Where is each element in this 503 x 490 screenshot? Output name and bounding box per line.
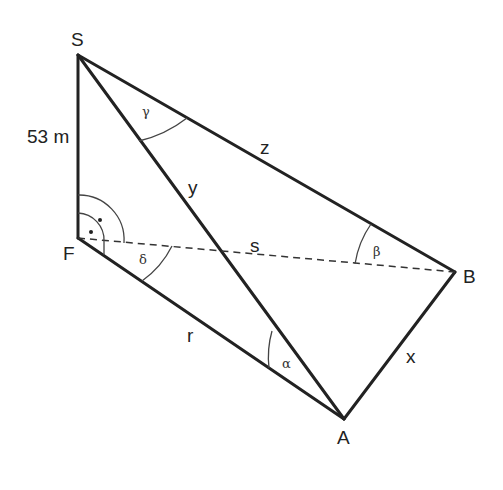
side-label-s: s bbox=[250, 235, 260, 256]
point-label-F: F bbox=[63, 243, 75, 264]
edge-FB-dashed bbox=[78, 238, 455, 272]
angle-label-delta: δ bbox=[139, 252, 147, 267]
side-label-z: z bbox=[260, 137, 270, 158]
angle-label-gamma: γ bbox=[142, 104, 150, 119]
right-angle-dot-2 bbox=[89, 230, 93, 234]
angle-alpha-arc bbox=[268, 331, 272, 368]
point-label-A: A bbox=[337, 427, 350, 448]
edge-SB bbox=[78, 55, 455, 272]
right-angle-dot-1 bbox=[98, 218, 102, 222]
angle-label-beta: β bbox=[373, 244, 381, 259]
height-label: 53 m bbox=[27, 126, 69, 147]
edge-FA bbox=[78, 238, 344, 419]
geometry-diagram: S F B A 53 m y z s r x γ δ β α bbox=[0, 0, 503, 490]
side-label-r: r bbox=[187, 325, 194, 346]
side-label-x: x bbox=[406, 346, 416, 367]
edge-SA bbox=[78, 55, 344, 419]
angle-gamma-arc bbox=[139, 118, 187, 141]
angle-label-alpha: α bbox=[282, 356, 291, 371]
point-label-S: S bbox=[71, 29, 84, 50]
side-label-y: y bbox=[188, 177, 198, 198]
edge-BA bbox=[344, 272, 455, 419]
angle-beta-arc bbox=[355, 224, 371, 264]
point-label-B: B bbox=[463, 266, 476, 287]
